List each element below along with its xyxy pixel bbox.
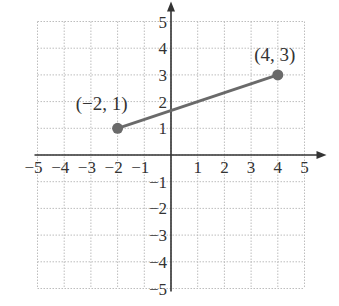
x-tick-label: 3: [247, 158, 256, 177]
x-tick-label: −2: [105, 158, 123, 177]
x-tick-label: 4: [274, 158, 283, 177]
x-tick-label: −5: [24, 158, 42, 177]
y-tick-label: 2: [159, 93, 168, 112]
x-tick-label: 2: [220, 158, 229, 177]
data-series: (−2, 1)(4, 3): [76, 44, 296, 134]
x-tick-label: −3: [78, 158, 96, 177]
y-tick-label: −2: [149, 199, 167, 218]
point-label: (−2, 1): [76, 93, 128, 115]
y-tick-label: 3: [159, 66, 168, 85]
y-tick-label: −3: [149, 226, 167, 245]
coordinate-plane: −5−4−3−2−112345−5−4−3−2−112345 (−2, 1)(4…: [0, 0, 339, 306]
data-point: [112, 123, 123, 134]
y-tick-label: 5: [159, 13, 168, 32]
x-tick-label: 1: [193, 158, 202, 177]
x-tick-label: −1: [131, 158, 149, 177]
y-tick-label: 4: [159, 39, 168, 58]
point-label: (4, 3): [254, 44, 295, 66]
x-tick-label: −4: [51, 158, 70, 177]
x-tick-label: 5: [300, 158, 309, 177]
line-segment-chart: −5−4−3−2−112345−5−4−3−2−112345 (−2, 1)(4…: [0, 0, 339, 306]
y-tick-label: −1: [149, 173, 167, 192]
y-axis-arrow-icon: [167, 2, 175, 12]
y-tick-label: 1: [159, 119, 168, 138]
y-tick-label: −5: [149, 280, 167, 299]
y-tick-label: −4: [149, 253, 168, 272]
data-point: [272, 69, 283, 80]
x-axis-arrow-icon: [317, 151, 327, 159]
